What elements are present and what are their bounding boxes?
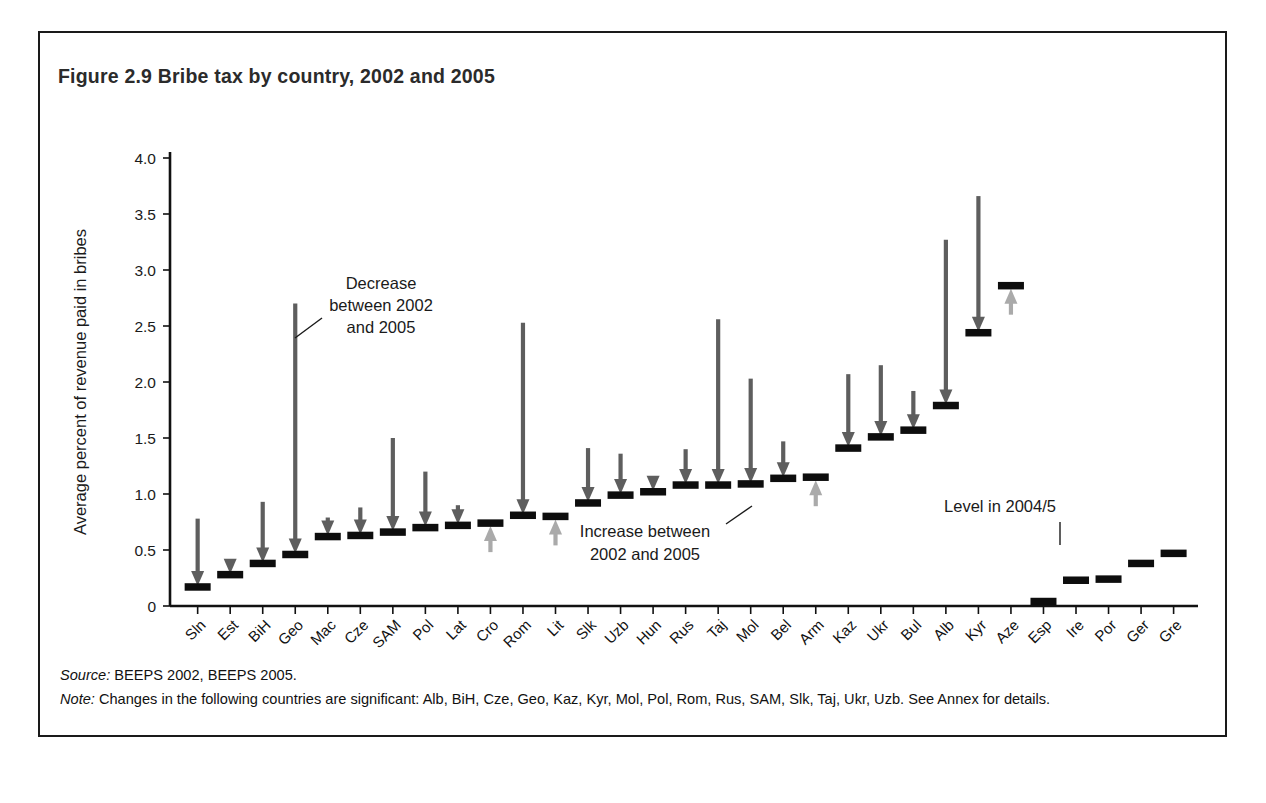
source-line: Source: BEEPS 2002, BEEPS 2005. — [60, 664, 1210, 688]
figure-border — [38, 31, 1227, 737]
note-label: Note: — [60, 691, 95, 707]
note-text: Changes in the following countries are s… — [95, 691, 1050, 707]
page-title: Figure 2.9 Bribe tax by country, 2002 an… — [58, 65, 495, 88]
source-label: Source: — [60, 667, 110, 683]
footnotes: Source: BEEPS 2002, BEEPS 2005. Note: Ch… — [60, 664, 1210, 711]
figure-page: Figure 2.9 Bribe tax by country, 2002 an… — [0, 0, 1266, 803]
source-text: BEEPS 2002, BEEPS 2005. — [110, 667, 297, 683]
note-line: Note: Changes in the following countries… — [60, 688, 1210, 712]
